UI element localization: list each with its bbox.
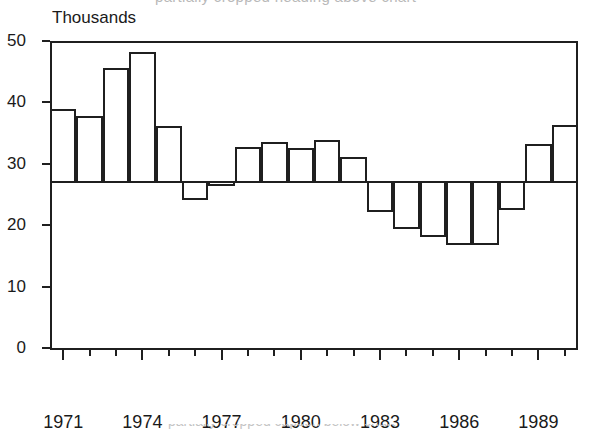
x-tick-1978 — [247, 350, 249, 356]
x-tick-1983 — [379, 350, 381, 360]
bar-1989 — [525, 144, 551, 183]
x-tick-1981 — [326, 350, 328, 356]
bar-1971 — [50, 109, 76, 183]
bar-chart-figure: partially cropped heading above chart Th… — [0, 0, 589, 433]
bar-1975 — [156, 126, 182, 183]
x-tick-1986 — [458, 350, 460, 360]
x-tick-1977 — [221, 350, 223, 360]
y-tick-20 — [42, 224, 50, 226]
y-tick-30 — [42, 163, 50, 165]
y-tick-label-0: 0 — [0, 339, 26, 356]
cropped-title-text: partially cropped heading above chart — [155, 0, 416, 5]
bar-1985 — [420, 181, 446, 236]
x-tick-1988 — [511, 350, 513, 356]
y-tick-50 — [42, 40, 50, 42]
bar-1981 — [314, 140, 340, 183]
bar-1972 — [76, 116, 102, 184]
x-tick-1979 — [273, 350, 275, 356]
cropped-title-sliver: partially cropped heading above chart — [0, 0, 589, 7]
y-tick-0 — [42, 347, 50, 349]
x-tick-1976 — [194, 350, 196, 356]
bar-1987 — [472, 181, 498, 245]
bar-1990 — [552, 125, 578, 183]
x-tick-1973 — [115, 350, 117, 356]
y-tick-label-50: 50 — [0, 32, 26, 49]
y-tick-label-10: 10 — [0, 278, 26, 295]
x-tick-1984 — [405, 350, 407, 356]
y-tick-label-40: 40 — [0, 93, 26, 110]
bar-1982 — [340, 157, 366, 183]
y-axis-line — [50, 41, 52, 350]
x-tick-1982 — [353, 350, 355, 356]
x-tick-1971 — [62, 350, 64, 360]
bar-1979 — [261, 142, 287, 183]
plot-area: 01020304050 1971197419771980198319861989 — [50, 41, 578, 350]
bar-1974 — [129, 52, 155, 183]
y-tick-label-30: 30 — [0, 155, 26, 172]
bar-1980 — [288, 148, 314, 183]
plot-right-border — [576, 41, 578, 350]
x-tick-1975 — [168, 350, 170, 356]
x-tick-1974 — [141, 350, 143, 360]
x-tick-1990 — [564, 350, 566, 356]
bar-1983 — [367, 181, 393, 212]
bar-1973 — [103, 68, 129, 184]
x-tick-1989 — [537, 350, 539, 360]
x-tick-1972 — [89, 350, 91, 356]
bar-1988 — [499, 181, 525, 209]
y-axis-unit-label: Thousands — [52, 8, 136, 28]
y-tick-40 — [42, 101, 50, 103]
x-tick-1980 — [300, 350, 302, 360]
y-tick-10 — [42, 286, 50, 288]
x-tick-1985 — [432, 350, 434, 356]
x-axis-line — [50, 348, 578, 350]
cropped-footer-sliver: partially cropped caption below chart — [0, 424, 589, 433]
x-tick-1987 — [485, 350, 487, 356]
bar-1977 — [208, 181, 234, 185]
bar-1984 — [393, 181, 419, 229]
bar-1986 — [446, 181, 472, 245]
y-tick-label-20: 20 — [0, 216, 26, 233]
plot-top-border — [50, 41, 578, 43]
bar-1978 — [235, 147, 261, 183]
cropped-footer-text: partially cropped caption below chart — [168, 424, 395, 429]
bar-1976 — [182, 181, 208, 200]
